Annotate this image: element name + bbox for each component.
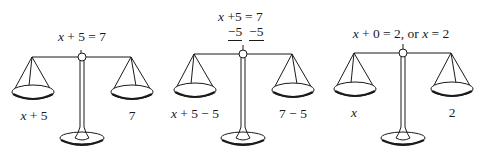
equation-rest: + 5 = 7 (64, 29, 106, 44)
right-pan-label: 2 (449, 106, 456, 120)
equation-rest: + 0 = 2, or (359, 26, 423, 41)
balance-scale-icon (0, 0, 162, 159)
subtract-left: −5 (228, 25, 242, 41)
left-pan-label: x (351, 106, 357, 120)
balance-scale-1: x + 5 = 7 x + 5 7 (0, 0, 162, 159)
equation-label: x + 0 = 2, or x = 2 (353, 27, 450, 41)
balance-scale-3: x + 0 = 2, or x = 2 x 2 (321, 0, 483, 159)
left-pan-label: x + 5 (20, 109, 47, 123)
balance-scale-icon (321, 0, 483, 159)
balance-scale-2: x +5 = 7 −5 −5 x + 5 − 5 7 − 5 (161, 0, 323, 159)
subtract-right: −5 (249, 25, 263, 41)
right-pan-label: 7 − 5 (279, 107, 307, 121)
left-pan-rest: + 5 (26, 108, 47, 123)
right-pan-label: 7 (129, 109, 136, 123)
left-pan-label: x + 5 − 5 (171, 107, 219, 121)
equation-rest: +5 = 7 (224, 9, 263, 24)
equation-line-1: x +5 = 7 (218, 10, 263, 24)
equation-rest: = 2 (428, 26, 449, 41)
equation-line-2: −5 −5 (228, 25, 264, 41)
variable-x: x (351, 105, 357, 120)
left-pan-rest: + 5 − 5 (177, 106, 219, 121)
equation-label: x + 5 = 7 (58, 30, 106, 44)
